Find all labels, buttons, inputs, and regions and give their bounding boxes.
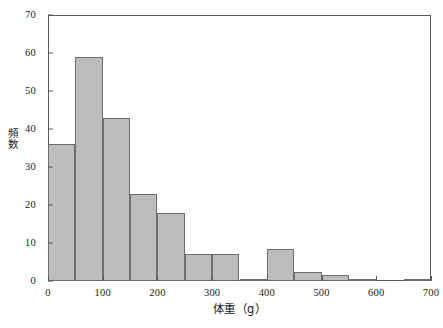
- histogram-bar: [75, 57, 102, 281]
- y-axis-tick-mark: [48, 129, 53, 130]
- histogram-bar: [294, 272, 321, 282]
- y-axis-tick-label: 0: [31, 276, 36, 287]
- histogram-bar: [48, 144, 75, 281]
- histogram-bar: [130, 194, 157, 281]
- y-axis: 010203040506070: [0, 0, 48, 328]
- y-axis-tick-mark: [48, 243, 53, 244]
- y-axis-tick-mark: [48, 15, 53, 16]
- y-axis-title: 頻数: [6, 128, 17, 150]
- x-axis-tick-mark: [48, 276, 49, 281]
- x-axis-tick-label: 200: [149, 288, 165, 299]
- y-axis-tick-mark: [48, 91, 53, 92]
- x-axis-tick-label: 300: [204, 288, 220, 299]
- y-axis-tick-mark: [48, 205, 53, 206]
- x-axis-tick-mark: [103, 276, 104, 281]
- y-axis-tick-label: 30: [25, 162, 36, 173]
- x-axis-tick-label: 400: [259, 288, 275, 299]
- y-axis-tick-mark: [48, 167, 53, 168]
- x-axis-tick-mark: [267, 276, 268, 281]
- x-axis-tick-mark: [376, 276, 377, 281]
- y-axis-tick-label: 20: [25, 200, 36, 211]
- histogram-bar: [103, 118, 130, 281]
- histogram-bar: [267, 249, 294, 281]
- y-axis-tick-label: 60: [25, 48, 36, 59]
- histogram-bar: [185, 254, 212, 281]
- y-axis-tick-mark: [48, 53, 53, 54]
- y-axis-tick-label: 50: [25, 86, 36, 97]
- histogram-chart: 010203040506070 頻数 010020030040050060070…: [0, 0, 443, 328]
- histogram-bars: [48, 15, 431, 281]
- x-axis-tick-label: 700: [423, 288, 439, 299]
- y-axis-tick-label: 40: [25, 124, 36, 135]
- y-axis-tick-label: 70: [25, 10, 36, 21]
- x-axis-tick-mark: [157, 276, 158, 281]
- x-axis-tick-label: 0: [45, 288, 50, 299]
- x-axis-tick-label: 600: [368, 288, 384, 299]
- x-axis-tick-mark: [322, 276, 323, 281]
- y-axis-tick-label: 10: [25, 238, 36, 249]
- x-axis-tick-label: 500: [313, 288, 329, 299]
- x-axis-title: 体重（g）: [48, 300, 431, 316]
- x-axis-tick-mark: [431, 276, 432, 281]
- x-axis-tick-mark: [212, 276, 213, 281]
- histogram-bar: [212, 254, 239, 281]
- histogram-bar: [157, 213, 184, 281]
- x-axis-tick-label: 100: [95, 288, 111, 299]
